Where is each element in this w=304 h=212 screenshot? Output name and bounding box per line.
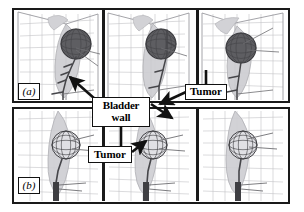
instrument-base-icon — [53, 182, 59, 201]
panel-b3 — [199, 109, 287, 201]
figure-montage: Bladder wall Tumor Tumor (a) (b) — [0, 0, 304, 212]
panel-label-b: (b) — [18, 177, 40, 194]
bladder-wall-line2: wall — [93, 112, 149, 124]
tumor-sphere — [226, 33, 256, 63]
tumor-sphere — [229, 131, 257, 159]
panel-a2-scene — [105, 10, 193, 100]
tumor-sphere — [61, 29, 91, 59]
panel-label-a: (a) — [18, 83, 40, 100]
bladder-wall-line1: Bladder — [93, 100, 149, 112]
tumor-callout-bottom: Tumor — [88, 146, 132, 163]
tumor-sphere — [52, 131, 80, 159]
bladder-wall-callout: Bladder wall — [92, 97, 150, 127]
tumor-callout-top: Tumor — [185, 84, 227, 100]
panel-b3-scene — [199, 109, 287, 201]
row-b-frame — [12, 107, 290, 204]
instrument-base-icon — [235, 182, 241, 201]
instrument-base-icon — [143, 182, 149, 201]
tumor-sphere — [139, 131, 167, 159]
row-a-frame — [12, 8, 290, 103]
panel-a2 — [105, 10, 193, 100]
